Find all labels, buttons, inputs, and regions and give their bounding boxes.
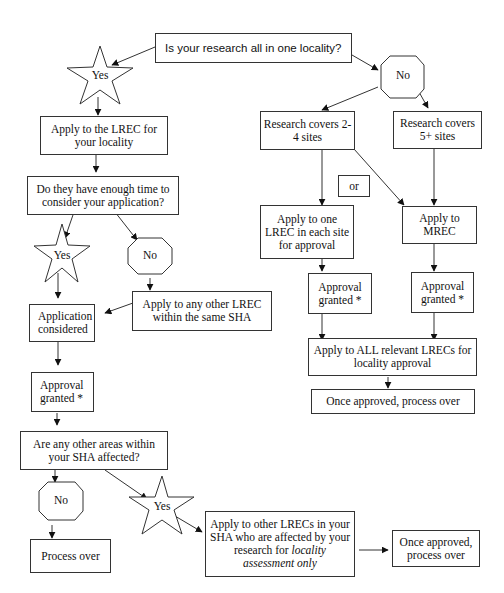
yes-label-2: Yes xyxy=(47,249,77,261)
question-time: Do they have enough time to consider you… xyxy=(27,176,179,215)
once-approved-1: Once approved, process over xyxy=(311,389,475,414)
apply-mrec-text: Apply to MREC xyxy=(405,212,474,238)
application-considered: Application considered xyxy=(29,304,95,342)
apply-lrec-locality: Apply to the LREC for your locality xyxy=(40,116,168,155)
no-label-1: No xyxy=(388,69,418,81)
research-5-sites-text: Research covers 5+ sites xyxy=(396,117,479,143)
apply-other-lrecs-sha-text: Apply to other LRECs in your SHA who are… xyxy=(208,518,352,570)
apply-all-lrecs: Apply to ALL relevant LRECs for locality… xyxy=(308,338,477,376)
apply-lrec-locality-text: Apply to the LREC for your locality xyxy=(43,123,165,149)
no-label-3: No xyxy=(46,494,76,506)
research-2-4-sites: Research covers 2-4 sites xyxy=(260,111,355,150)
yes-label-1: Yes xyxy=(85,69,115,81)
question-other-areas: Are any other areas within your SHA affe… xyxy=(20,431,168,470)
once-approved-2: Once approved, process over xyxy=(392,530,480,567)
apply-mrec: Apply to MREC xyxy=(402,206,477,244)
apply-other-lrec: Apply to any other LREC within the same … xyxy=(132,291,272,331)
apply-all-lrecs-text: Apply to ALL relevant LRECs for locality… xyxy=(311,344,474,370)
question-locality-text: Is your research all in one locality? xyxy=(165,42,341,55)
question-locality: Is your research all in one locality? xyxy=(155,33,352,63)
apply-other-lrecs-sha: Apply to other LRECs in your SHA who are… xyxy=(205,511,355,577)
yes-label-3: Yes xyxy=(147,500,177,512)
research-5-sites: Research covers 5+ sites xyxy=(393,111,482,149)
apply-other-lrec-text: Apply to any other LREC within the same … xyxy=(135,298,269,324)
research-2-4-sites-text: Research covers 2-4 sites xyxy=(263,118,352,144)
approval-granted-1: Approval granted * xyxy=(31,372,94,412)
no-label-2: No xyxy=(135,249,165,261)
apply-one-lrec-text: Apply to one LREC in each site for appro… xyxy=(263,213,351,252)
approval-granted-2: Approval granted * xyxy=(308,273,372,314)
apply-other-lrecs-main-text: Apply to other LRECs in your SHA who are… xyxy=(210,518,350,556)
or-text: or xyxy=(349,180,359,193)
once-approved-2-text: Once approved, process over xyxy=(395,536,477,562)
process-over: Process over xyxy=(30,539,111,573)
approval-granted-3-text: Approval granted * xyxy=(414,280,471,306)
question-time-text: Do they have enough time to consider you… xyxy=(30,183,176,209)
apply-one-lrec: Apply to one LREC in each site for appro… xyxy=(260,205,354,259)
approval-granted-2-text: Approval granted * xyxy=(311,281,369,307)
application-considered-text: Application considered xyxy=(38,310,92,336)
process-over-text: Process over xyxy=(41,550,99,563)
once-approved-1-text: Once approved, process over xyxy=(326,395,459,408)
approval-granted-1-text: Approval granted * xyxy=(40,379,91,405)
or-label: or xyxy=(338,175,370,197)
approval-granted-3: Approval granted * xyxy=(411,272,474,313)
question-other-areas-text: Are any other areas within your SHA affe… xyxy=(23,438,165,464)
